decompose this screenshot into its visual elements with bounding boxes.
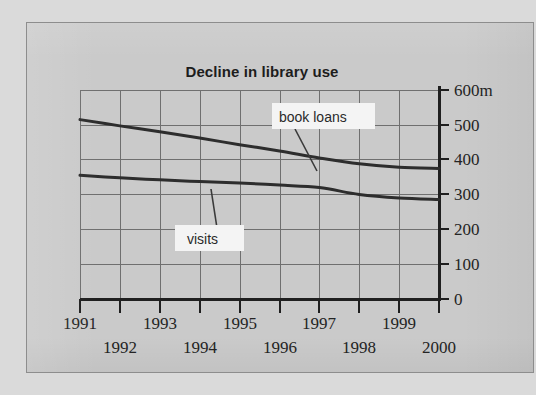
y-tick-label-0: 0 — [454, 290, 463, 309]
x-tick-label-1997: 1997 — [302, 314, 337, 333]
line-chart: 600m 500 400 300 200 100 0 1991 — [27, 23, 535, 374]
x-tick-label-1999: 1999 — [382, 314, 416, 333]
y-tick-label-100: 100 — [454, 255, 480, 274]
y-tick-label-300: 300 — [454, 185, 480, 204]
x-tick-label-2000: 2000 — [422, 338, 456, 357]
x-tick-label-1993: 1993 — [143, 314, 177, 333]
x-tick-label-1992: 1992 — [103, 338, 137, 357]
x-tick-label-1995: 1995 — [223, 314, 257, 333]
y-tick-label-200: 200 — [454, 220, 480, 239]
callout-leader-book-loans — [295, 129, 317, 171]
x-tick-label-1994: 1994 — [183, 338, 218, 357]
y-tick-label-600: 600m — [454, 81, 493, 100]
callout-book-loans: book loans — [272, 103, 375, 129]
x-tick-label-1991: 1991 — [63, 314, 97, 333]
series-line-visits — [80, 175, 439, 199]
figure-page: Decline in library use — [0, 0, 536, 395]
x-tick-label-1998: 1998 — [342, 338, 376, 357]
series-line-book-loans — [80, 120, 439, 169]
callout-label-book-loans: book loans — [279, 109, 347, 125]
callout-leader-visits — [211, 189, 217, 228]
x-tick-label-1996: 1996 — [263, 338, 297, 357]
x-ticks — [80, 299, 439, 313]
callout-visits: visits — [175, 225, 244, 251]
y-tick-label-400: 400 — [454, 150, 480, 169]
grid-horizontal — [80, 90, 439, 264]
figure-frame: Decline in library use — [26, 22, 534, 373]
callout-label-visits: visits — [187, 231, 218, 247]
y-tick-label-500: 500 — [454, 116, 480, 135]
